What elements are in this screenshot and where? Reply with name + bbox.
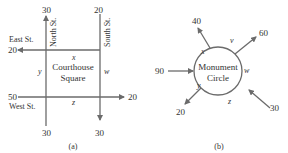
flow-west-left: 50	[8, 92, 18, 102]
caption-b: (b)	[214, 142, 224, 151]
monument-label-line1: Monument	[198, 62, 238, 72]
arrow-bottom-right-in	[249, 90, 270, 108]
arrow-top-right-out	[235, 37, 256, 54]
flow-south-top: 20	[94, 5, 104, 15]
east-street-label: East St.	[9, 35, 33, 44]
variable-v: v	[230, 36, 234, 45]
courthouse-label-line2: Square	[61, 73, 86, 83]
flow-north-top: 30	[42, 5, 52, 15]
south-street-label: South St.	[103, 18, 112, 47]
variable-w-b: w	[244, 66, 250, 75]
flow-left-in: 90	[155, 66, 165, 76]
arrow-bottom-left-out	[185, 88, 201, 104]
caption-a: (a)	[69, 142, 78, 151]
traffic-flow-diagrams: 30 20 20 50 20 30 30 East St. West St. N…	[0, 0, 288, 153]
flow-south-bottom: 30	[95, 128, 105, 138]
figure-b-monument-circle: 90 40 60 30 20 x v w y z Monument Circle…	[155, 16, 280, 151]
flow-north-bottom: 30	[42, 128, 52, 138]
variable-y: y	[37, 67, 42, 76]
arrow-top-left-out	[198, 28, 210, 48]
variable-w: w	[104, 67, 110, 76]
variable-x: x	[71, 53, 76, 62]
flow-bottom-left-out: 20	[176, 107, 186, 117]
flow-bottom-right-in: 30	[270, 103, 280, 113]
flow-west-right: 20	[128, 92, 138, 102]
flow-top-right-out: 60	[259, 28, 269, 38]
figure-a-courthouse-square: 30 20 20 50 20 30 30 East St. West St. N…	[8, 5, 138, 151]
variable-x-b: x	[200, 47, 205, 56]
courthouse-label-line1: Courthouse	[52, 62, 94, 72]
west-street-label: West St.	[9, 102, 35, 111]
monument-label-line2: Circle	[207, 73, 229, 83]
variable-y-b: y	[196, 81, 201, 90]
flow-east-left: 20	[8, 45, 18, 55]
variable-z: z	[71, 98, 76, 107]
flow-top-left-out: 40	[192, 16, 202, 26]
variable-z-b: z	[227, 97, 232, 106]
north-street-label: North St.	[49, 18, 58, 47]
